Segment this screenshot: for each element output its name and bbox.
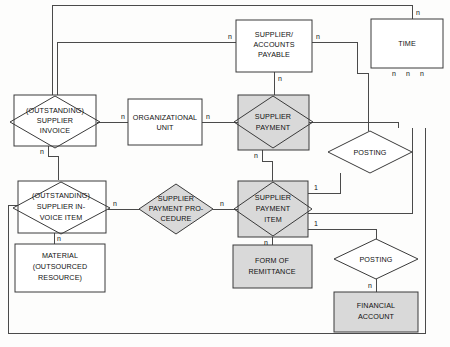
cardinality-invoice-item-bottom: n [57,235,61,242]
outstanding-supplier-invoice-label-2: SUPPLIER [37,116,73,125]
supplier-accounts-payable-label-2: ACCOUNTS [253,40,294,49]
material-outsourced-resource-label-3: RESOURCE) [38,273,82,282]
cardinality-time-top: n [416,9,420,16]
cardinality-payment-item-right-top: 1 [314,184,318,191]
form-of-remittance-label-2: REMITTANCE [248,267,295,276]
cardinality-time-bottom-3: n [420,70,424,77]
material-outsourced-resource-label-2: (OUTSOURCED [33,262,88,271]
cardinality-procedure-right: n [220,200,224,207]
node-organizational-unit[interactable]: ORGANIZATIONAL UNIT [128,99,202,145]
supplier-accounts-payable-label-3: PAYABLE [258,50,290,59]
cardinality-invoice-bottom: n [40,148,44,155]
organizational-unit-label-2: UNIT [156,123,174,132]
node-form-of-remittance[interactable]: FORM OF REMITTANCE [233,245,312,288]
node-time[interactable]: TIME [371,19,443,68]
supplier-payment-item-label-3: ITEM [264,215,282,224]
er-diagram-svg: (OUTSTANDING) SUPPLIER INVOICE ORGANIZAT… [0,0,450,347]
edge-invoice-to-time [52,5,412,95]
financial-account-label-2: ACCOUNT [358,312,395,321]
organizational-unit-label-1: ORGANIZATIONAL [133,113,197,122]
form-of-remittance-label-1: FORM OF [255,256,289,265]
edge-accounts-payable-to-payment-bus [312,42,368,122]
supplier-payment-item-label-1: SUPPLIER [255,193,291,202]
node-material-outsourced-resource[interactable]: MATERIAL (OUTSOURCED RESOURCE) [15,244,105,292]
cardinality-time-bottom-2: n [406,70,410,77]
node-supplier-accounts-payable[interactable]: SUPPLIER/ ACCOUNTS PAYABLE [236,20,312,72]
supplier-payment-item-label-2: PAYMENT [256,204,291,213]
cardinality-payment-item-bottom: n [264,239,268,246]
cardinality-supplier-payment-bottom: n [254,152,258,159]
cardinality-accounts-payable-bottom: n [278,75,282,82]
supplier-payment-procedure-label-2: PAYMENT PRO- [149,204,204,213]
cardinality-posting-lower-bottom: n [368,282,372,289]
edge-supplier-payment-to-payment-item [262,150,272,181]
cardinality-time-bottom-1: n [392,70,396,77]
edge-payment-item-to-posting-lower [308,229,376,239]
cardinality-payment-item-right-bottom: 1 [314,220,318,227]
outstanding-supplier-invoice-label-1: (OUTSTANDING) [26,106,84,115]
cardinality-org-unit-left: n [121,113,125,120]
supplier-payment-label-1: SUPPLIER [255,112,291,121]
supplier-payment-procedure-label-3: CEDURE [161,214,192,223]
posting-upper-label: POSTING [353,148,386,157]
outstanding-supplier-invoice-item-label-3: VOICE ITEM [40,213,83,222]
cardinality-org-unit-right: n [206,113,210,120]
outstanding-supplier-invoice-label-3: INVOICE [40,126,70,135]
node-supplier-payment-procedure[interactable]: SUPPLIER PAYMENT PRO- CEDURE [139,184,213,234]
node-supplier-payment-item[interactable]: SUPPLIER PAYMENT ITEM [234,181,312,237]
outstanding-supplier-invoice-item-label-2: SUPPLIER IN- [37,202,86,211]
edge-invoice-to-invoice-item [48,146,58,180]
material-outsourced-resource-label-1: MATERIAL [42,251,78,260]
supplier-payment-procedure-label-1: SUPPLIER [158,194,194,203]
node-financial-account[interactable]: FINANCIAL ACCOUNT [334,292,418,332]
supplier-accounts-payable-label-1: SUPPLIER/ [255,30,293,39]
supplier-payment-label-2: PAYMENT [256,123,291,132]
financial-account-label-1: FINANCIAL [357,301,395,310]
edge-invoice-to-accounts-payable [57,42,236,100]
er-diagram-canvas: (OUTSTANDING) SUPPLIER INVOICE ORGANIZAT… [0,0,450,347]
node-outstanding-supplier-invoice-item[interactable]: (OUTSTANDING) SUPPLIER IN- VOICE ITEM [13,181,110,234]
node-posting-lower[interactable]: POSTING [334,239,418,279]
node-outstanding-supplier-invoice[interactable]: (OUTSTANDING) SUPPLIER INVOICE [10,95,100,148]
cardinality-accounts-payable-right: n [316,33,320,40]
cardinality-accounts-payable-left: n [228,33,232,40]
cardinality-invoice-item-right: n [113,200,117,207]
posting-lower-label: POSTING [359,255,392,264]
time-label: TIME [398,39,416,48]
outstanding-supplier-invoice-item-label-1: (OUTSTANDING) [32,191,90,200]
node-posting-upper[interactable]: POSTING [328,131,412,173]
edge-payment-item-to-posting-upper [308,173,340,193]
node-supplier-payment[interactable]: SUPPLIER PAYMENT [234,95,313,150]
